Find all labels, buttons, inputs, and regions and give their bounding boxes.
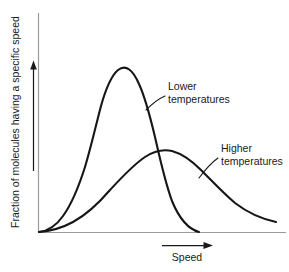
annotation-higher-temperatures: Higher temperatures <box>199 142 283 178</box>
y-axis-label: Fraction of molecules having a specific … <box>9 16 21 228</box>
annotation-higher-temperatures-line2: temperatures <box>221 155 283 167</box>
x-axis-label: Speed <box>172 251 203 263</box>
chart-canvas: Fraction of molecules having a specific … <box>0 0 289 272</box>
annotation-lower-temperatures-line2: temperatures <box>168 93 230 105</box>
annotation-lower-temperatures-line1: Lower <box>168 80 197 92</box>
annotation-higher-temperatures-line1: Higher <box>221 142 252 154</box>
maxwell-boltzmann-distribution-figure: Fraction of molecules having a specific … <box>0 0 289 272</box>
annotation-lower-temperatures: Lower temperatures <box>146 80 230 110</box>
x-axis-direction-arrow <box>162 242 213 249</box>
y-axis-direction-arrow <box>30 61 37 172</box>
